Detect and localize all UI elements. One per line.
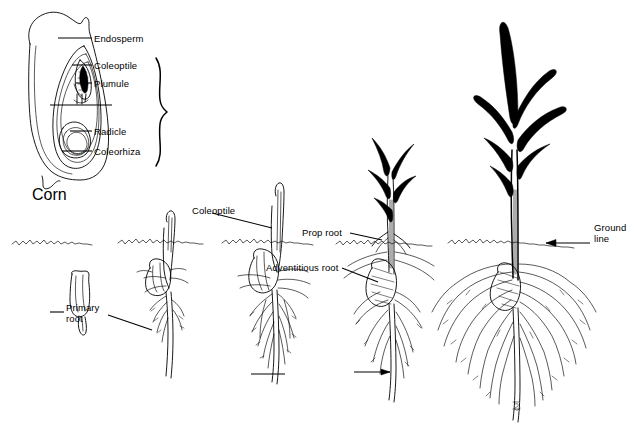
stage-4-leafy-seedling — [344, 138, 434, 402]
label-ground-line-line2: line — [594, 233, 609, 244]
label-plumule: Plumule — [94, 78, 129, 89]
label-ground-line-line1: Ground — [594, 222, 626, 233]
ground-lines — [12, 239, 574, 248]
label-primary-root-line2: root — [66, 313, 83, 324]
label-primary-root-line1: Primary — [66, 302, 99, 313]
stage-3-seedling — [238, 183, 310, 384]
label-ground-line: Ground line — [594, 222, 632, 244]
embryo-brace — [156, 58, 167, 166]
label-prop-root: Prop root — [302, 227, 342, 238]
stage-5-young-plant — [432, 22, 596, 422]
label-endosperm: Endosperm — [94, 33, 143, 44]
plumule-coleoptile-detail — [74, 60, 91, 104]
label-radicle: Radicle — [94, 126, 126, 137]
label-coleoptile-stage: Coleoptile — [192, 205, 235, 216]
label-primary-root: Primary root — [66, 302, 110, 324]
stage-2-coleoptile-emerging — [137, 211, 188, 378]
radicle-coleorhiza-detail — [59, 122, 90, 158]
figure-title: Corn — [32, 186, 67, 204]
label-adventitious-root: Adventitious root — [266, 262, 338, 273]
label-coleoptile: Coleoptile — [94, 60, 137, 71]
label-coleorhiza: Coleorhiza — [94, 146, 140, 157]
figure-canvas: .s { fill:none; stroke:#000; stroke-widt… — [0, 0, 635, 430]
